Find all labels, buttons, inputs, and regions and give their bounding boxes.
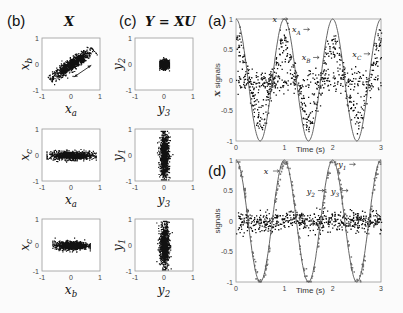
y-axis-label: xc (18, 239, 34, 251)
x-tick: -1 (132, 274, 138, 281)
x-tick: -1 (39, 274, 45, 281)
x-tick: 1 (191, 184, 195, 191)
time-plot-d: 0123-1-0.500.51Time (s)signalsxy1y2y3 (213, 157, 383, 296)
y-axis-label: X signals (212, 63, 222, 97)
panel-label-a: (a) (208, 12, 226, 29)
y-tick: 1 (35, 216, 39, 223)
figure: (b) X (c) Y = XU (a) (d) -101-101xaxb-10… (0, 0, 403, 313)
y-tick: -1 (126, 268, 132, 275)
y-axis-label: y1 (111, 149, 127, 162)
y-tick: 1 (128, 126, 132, 133)
x-tick: 1 (191, 93, 195, 100)
panel-title-b: X (63, 14, 75, 29)
y-tick: -1 (33, 87, 39, 94)
scatter-plot-c3: -101-101y2y1 (111, 216, 195, 300)
y-tick: 0 (128, 61, 132, 68)
x-tick: 0 (234, 144, 238, 151)
x-tick: 1 (282, 144, 286, 151)
y-tick: 0.5 (223, 46, 233, 53)
time-plot-a: 0123-1-0.500.51Time (s)X signalsxxAxBxC (212, 15, 383, 154)
x-axis-label: xb (65, 283, 77, 299)
x-tick: -1 (39, 184, 45, 191)
x-axis-label: y3 (157, 102, 171, 118)
x-tick: 1 (98, 93, 102, 100)
x-tick: -1 (132, 93, 138, 100)
panel-title-c: Y = XU (145, 14, 196, 29)
x-tick: 0 (69, 93, 73, 100)
x-tick: 2 (331, 144, 335, 151)
x-tick: 0 (162, 93, 166, 100)
y-tick: -1 (126, 87, 132, 94)
y-tick: 1 (35, 126, 39, 133)
scatter-plot-c2: -101-101y3y1 (111, 126, 195, 210)
y-axis-label: y1 (111, 239, 127, 252)
y-tick: 0 (35, 61, 39, 68)
y-tick: -0.5 (221, 248, 233, 255)
y-tick: -1 (126, 178, 132, 185)
y-tick: 1 (229, 157, 233, 164)
annotation-x: x (264, 167, 269, 176)
panel-label-d: (d) (208, 162, 226, 179)
scatter-grid: -101-101xaxb-101-101xaxc-101-101xbxc-101… (18, 35, 195, 300)
x-axis-label: Time (s) (296, 286, 325, 295)
y-tick: 1 (128, 216, 132, 223)
x-tick: 3 (379, 144, 383, 151)
y-tick: 0 (128, 242, 132, 249)
x-axis-label: Time (s) (296, 145, 325, 154)
y-tick: 1 (35, 35, 39, 42)
y-tick: 0 (35, 242, 39, 249)
panel-label-c: (c) (119, 12, 137, 29)
scatter-plot-b3: -101-101xbxc (18, 216, 102, 300)
x-axis-label: xa (65, 102, 77, 118)
x-tick: 3 (379, 285, 383, 292)
x-axis-label: xa (65, 193, 77, 209)
x-tick: 2 (331, 285, 335, 292)
x-tick: 0 (69, 274, 73, 281)
x-tick: -1 (132, 184, 138, 191)
y-tick: 1 (229, 16, 233, 23)
y-axis-label: signals (213, 209, 222, 234)
x-tick: 0 (162, 274, 166, 281)
x-tick: -1 (39, 93, 45, 100)
annotation-x: x (272, 15, 277, 24)
x-tick: 0 (234, 285, 238, 292)
scatter-plot-b2: -101-101xaxc (18, 126, 102, 210)
y-tick: 0 (35, 152, 39, 159)
x-tick: 0 (69, 184, 73, 191)
x-tick: 0 (162, 184, 166, 191)
x-tick: 1 (282, 285, 286, 292)
y-tick: 1 (128, 35, 132, 42)
time-series-plots: 0123-1-0.500.51Time (s)X signalsxxAxBxC0… (212, 15, 383, 295)
y-axis-label: xc (18, 149, 34, 161)
scatter-plot-c1: -101-101y3y2 (111, 35, 195, 119)
x-axis-label: y2 (157, 283, 170, 299)
x-tick: 1 (191, 274, 195, 281)
panel-label-b: (b) (7, 12, 25, 29)
y-tick: -1 (33, 268, 39, 275)
y-tick: -0.5 (221, 107, 233, 114)
y-tick: -1 (33, 178, 39, 185)
scatter-plot-b1: -101-101xaxb (18, 35, 102, 119)
y-tick: -1 (227, 138, 233, 145)
x-tick: 1 (98, 184, 102, 191)
y-tick: 0 (229, 218, 233, 225)
y-tick: -1 (227, 279, 233, 286)
y-tick: 0 (128, 152, 132, 159)
y-tick: 0 (229, 77, 233, 84)
y-axis-label: y2 (111, 58, 127, 71)
x-axis-label: y3 (157, 193, 171, 209)
x-tick: 1 (98, 274, 102, 281)
y-tick: 0.5 (223, 187, 233, 194)
y-axis-label: xb (18, 58, 34, 70)
